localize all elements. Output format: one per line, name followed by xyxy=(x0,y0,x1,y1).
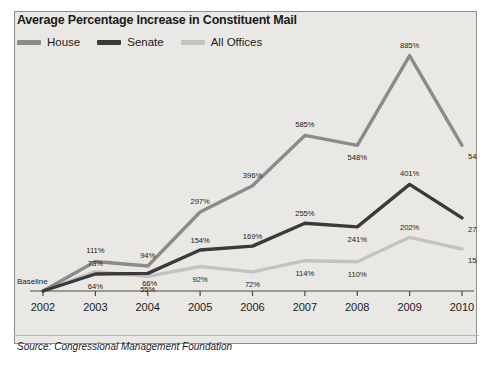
data-label: 72% xyxy=(245,280,260,289)
data-label: 255% xyxy=(295,209,315,218)
data-label: 114% xyxy=(295,269,314,278)
data-label: 297% xyxy=(190,197,210,206)
data-label: 396% xyxy=(243,171,263,180)
data-label: 548% xyxy=(348,153,368,162)
data-label: 241% xyxy=(348,235,368,244)
data-label: 55% xyxy=(140,285,155,294)
x-axis-label: 2005 xyxy=(188,301,212,313)
data-label: 275% xyxy=(468,225,477,234)
x-axis-label: 2007 xyxy=(293,301,317,313)
x-axis-label: 2009 xyxy=(397,301,421,313)
data-label: 401% xyxy=(400,169,420,178)
data-label: 110% xyxy=(348,270,367,279)
data-label: 169% xyxy=(243,232,263,241)
x-axis-label: 2010 xyxy=(450,301,474,313)
x-axis-label: 2002 xyxy=(31,301,55,313)
data-label: 548% xyxy=(468,152,477,161)
data-label: 154% xyxy=(190,236,210,245)
x-axis-label: 2004 xyxy=(136,301,160,313)
data-label: 64% xyxy=(88,282,103,291)
data-label: 111% xyxy=(86,246,105,255)
line-chart-svg: 200220032004200520062007200820092010111%… xyxy=(14,11,477,344)
data-label: 585% xyxy=(295,120,315,129)
plot-area: 200220032004200520062007200820092010111%… xyxy=(14,11,477,344)
x-axis-label: 2008 xyxy=(345,301,369,313)
data-label: 158% xyxy=(468,256,477,265)
source-note: Source: Congressional Management Foundat… xyxy=(17,341,232,352)
data-label: 202% xyxy=(400,223,420,232)
baseline-label: Baseline xyxy=(17,277,48,286)
data-label: 92% xyxy=(193,275,208,284)
x-axis-label: 2003 xyxy=(83,301,107,313)
data-label: 94% xyxy=(140,251,155,260)
data-label: 885% xyxy=(400,41,420,50)
x-axis-label: 2006 xyxy=(240,301,264,313)
footer-divider xyxy=(14,335,479,336)
data-label: 73% xyxy=(88,259,103,268)
